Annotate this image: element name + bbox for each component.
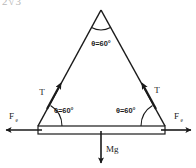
bottom-right-angle-arc — [141, 106, 153, 127]
force-right-symbol: F — [174, 111, 179, 121]
weight-label: Mg — [106, 144, 119, 154]
diagram-canvas: θ=60° θ=60° θ=60° T T Mg F e F e — [0, 0, 196, 168]
force-left-label: F e — [9, 111, 19, 123]
force-left-symbol: F — [9, 111, 14, 121]
force-right-subscript: e — [181, 117, 184, 123]
apex-angle-arc — [92, 28, 111, 30]
free-body-diagram: 2√3 — [0, 0, 196, 168]
clipped-top-text: 2√3 — [2, 0, 22, 7]
bottom-left-angle-label: θ=60° — [54, 106, 74, 115]
tension-left-label: T — [39, 87, 45, 97]
bottom-right-angle-label: θ=60° — [116, 106, 136, 115]
force-left-subscript: e — [16, 117, 19, 123]
apex-angle-label: θ=60° — [91, 39, 111, 48]
force-right-label: F e — [174, 111, 184, 123]
tension-right-label: T — [154, 85, 160, 95]
